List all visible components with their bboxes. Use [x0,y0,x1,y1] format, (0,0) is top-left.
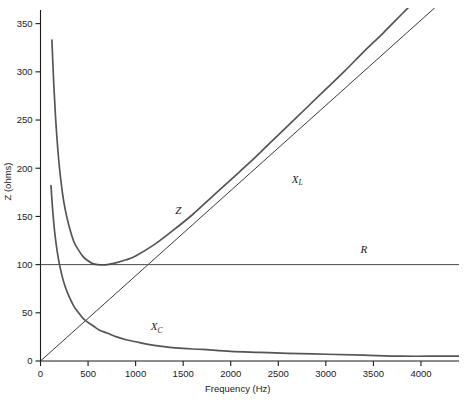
chart-canvas: 050100150200250300350 050010001500200025… [0,0,465,404]
x-tick-label: 3000 [315,368,336,379]
x-tick-label: 3500 [363,368,384,379]
curve-label-z: Z [175,204,182,216]
x-axis-title: Frequency (Hz) [205,383,270,394]
chart-background [0,0,465,404]
x-tick-label: 500 [80,368,96,379]
y-tick-label: 100 [17,259,33,270]
x-tick-label: 4000 [410,368,431,379]
x-tick-label: 1500 [173,368,194,379]
impedance-vs-frequency-figure: 050100150200250300350 050010001500200025… [0,0,465,404]
y-tick-label: 0 [27,355,32,366]
y-tick-label: 150 [17,211,33,222]
x-tick-label: 2500 [268,368,289,379]
curve-label-r: R [360,243,368,255]
x-tick-label: 0 [38,368,43,379]
x-tick-label: 1000 [125,368,146,379]
y-tick-label: 50 [22,307,33,318]
y-tick-label: 250 [17,114,33,125]
x-tick-label: 2000 [220,368,241,379]
y-tick-label: 350 [17,18,33,29]
y-axis-title: Z (ohms) [2,163,13,201]
y-tick-label: 200 [17,163,33,174]
y-tick-label: 300 [17,66,33,77]
